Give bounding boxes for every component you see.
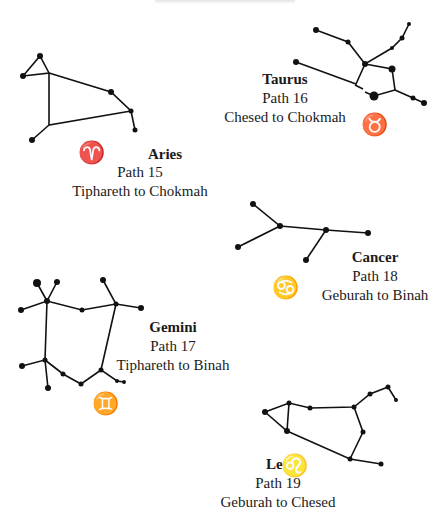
aries-figure: [23, 56, 135, 140]
path-number: Path 15: [60, 163, 220, 182]
path-number: Path 19: [213, 474, 343, 493]
constellation-name: Aries: [110, 145, 220, 164]
constellation-name: Leo: [213, 455, 343, 474]
path-number: Path 16: [215, 89, 355, 108]
constellation-name: Taurus: [215, 70, 355, 89]
aries-symbol-icon: ♈: [78, 142, 105, 164]
path-route: Tiphareth to Chokmah: [60, 182, 220, 201]
cancer-caption: Cancer Path 18 Geburah to Binah: [311, 248, 439, 305]
path-route: Chesed to Chokmah: [215, 108, 355, 127]
aries-caption: Aries: [110, 145, 220, 164]
path-route: Geburah to Chesed: [213, 493, 343, 512]
path-route: Tiphareth to Binah: [113, 356, 233, 375]
gemini-symbol-icon: ♊: [92, 393, 119, 415]
aries-path-info: Path 15 Tiphareth to Chokmah: [60, 163, 220, 201]
leo-caption: Leo Path 19 Geburah to Chesed: [213, 455, 343, 512]
taurus-symbol-icon: ♉: [361, 114, 388, 136]
path-number: Path 17: [113, 337, 233, 356]
constellation-name: Gemini: [113, 318, 233, 337]
path-number: Path 18: [311, 267, 439, 286]
constellation-name: Cancer: [311, 248, 439, 267]
leo-symbol-icon: ♌: [281, 455, 308, 477]
cancer-symbol-icon: ♋: [272, 277, 299, 299]
path-route: Geburah to Binah: [311, 286, 439, 305]
taurus-caption: Taurus Path 16 Chesed to Chokmah: [215, 70, 355, 127]
gemini-caption: Gemini Path 17 Tiphareth to Binah: [113, 318, 233, 375]
